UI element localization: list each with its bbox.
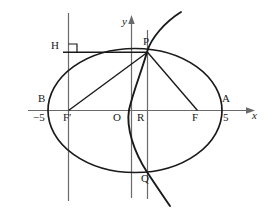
label-origin: O (113, 112, 121, 123)
segment-p-f (148, 52, 198, 110)
right-angle-marker (69, 44, 78, 52)
label-axis-y: y (122, 16, 127, 27)
auxiliary-curve (128, 12, 181, 206)
label-vertex-b: B (38, 93, 45, 104)
y-axis-arrow (128, 15, 134, 24)
label-focus-right: F (192, 112, 198, 123)
label-foot-axis-r: R (137, 112, 144, 123)
label-point-p: P (143, 36, 149, 47)
figure-canvas (0, 0, 272, 218)
label-axis-x: x (252, 110, 257, 121)
label-focus-left: F′ (63, 112, 72, 123)
label-foot-h: H (51, 40, 59, 51)
label-vertex-b-value: −5 (33, 112, 45, 123)
label-point-q: Q (141, 173, 149, 184)
geometry-figure: B −5 A 5 F′ O R F P Q H y x (0, 0, 272, 218)
label-vertex-a: A (222, 93, 230, 104)
label-vertex-a-value: 5 (223, 112, 229, 123)
segment-fprime-p (69, 52, 148, 110)
